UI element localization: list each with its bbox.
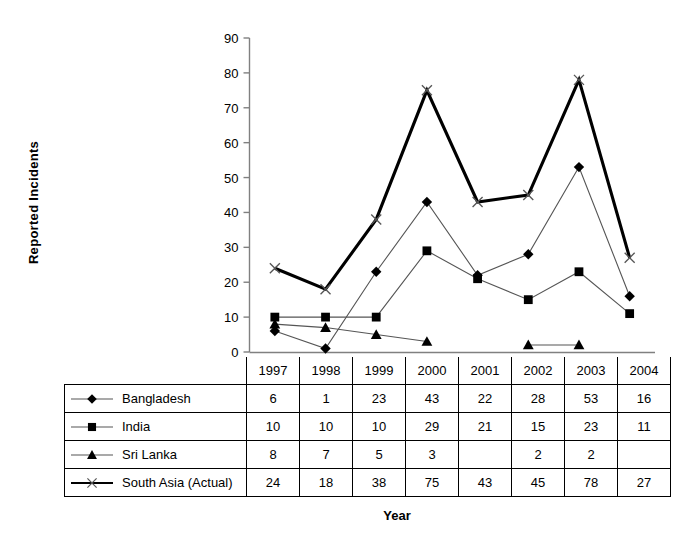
legend-swatch bbox=[69, 447, 115, 463]
table-value-cell: 53 bbox=[565, 385, 618, 413]
y-tick-label: 80 bbox=[224, 66, 238, 81]
y-tick-label: 10 bbox=[224, 310, 238, 325]
table-value-cell: 43 bbox=[406, 385, 459, 413]
table-header-row: 19971998199920002001200220032004 bbox=[65, 357, 671, 385]
y-tick-label: 20 bbox=[224, 275, 238, 290]
legend-marker-triangle-icon bbox=[69, 447, 115, 463]
table-corner-cell bbox=[65, 357, 247, 385]
table-value-cell: 2 bbox=[512, 441, 565, 469]
legend-label: South Asia (Actual) bbox=[115, 475, 233, 490]
y-axis-ticks: 0102030405060708090 bbox=[224, 31, 249, 360]
series-layer bbox=[269, 75, 634, 354]
series-india bbox=[270, 246, 634, 321]
table-value-cell: 29 bbox=[406, 413, 459, 441]
table-row: South Asia (Actual)2418387543457827 bbox=[65, 469, 671, 497]
series-sri-lanka bbox=[269, 319, 584, 350]
x-axis-title: Year bbox=[0, 508, 684, 523]
y-tick-label: 70 bbox=[224, 101, 238, 116]
data-table: 19971998199920002001200220032004Banglade… bbox=[64, 357, 671, 497]
data-point-marker bbox=[524, 295, 533, 304]
table-value-cell: 2 bbox=[565, 441, 618, 469]
year-header-cell: 2000 bbox=[406, 357, 459, 385]
table-row: India1010102921152311 bbox=[65, 413, 671, 441]
table-row: Sri Lanka875322 bbox=[65, 441, 671, 469]
table-value-cell: 21 bbox=[459, 413, 512, 441]
legend-cell-bangladesh: Bangladesh bbox=[65, 385, 247, 413]
table-value-cell: 78 bbox=[565, 469, 618, 497]
y-tick-label: 50 bbox=[224, 171, 238, 186]
table-value-cell: 23 bbox=[565, 413, 618, 441]
table-value-cell: 24 bbox=[247, 469, 300, 497]
legend-label: India bbox=[115, 419, 150, 434]
data-point-marker bbox=[423, 246, 432, 255]
series-line bbox=[275, 80, 630, 289]
data-point-marker bbox=[575, 267, 584, 276]
legend-swatch bbox=[69, 475, 115, 491]
year-header-cell: 2001 bbox=[459, 357, 512, 385]
data-point-marker bbox=[422, 197, 432, 207]
legend-marker-square-icon bbox=[69, 419, 115, 435]
data-point-marker bbox=[625, 309, 634, 318]
legend-cell-sri-lanka: Sri Lanka bbox=[65, 441, 247, 469]
table-value-cell: 10 bbox=[247, 413, 300, 441]
table-value-cell: 16 bbox=[618, 385, 671, 413]
year-header-cell: 1999 bbox=[353, 357, 406, 385]
year-header-cell: 2002 bbox=[512, 357, 565, 385]
year-header-cell: 2004 bbox=[618, 357, 671, 385]
series-south-asia-actual bbox=[270, 75, 635, 294]
table-value-cell: 23 bbox=[353, 385, 406, 413]
year-header-cell: 2003 bbox=[565, 357, 618, 385]
data-point-marker bbox=[523, 249, 533, 259]
legend-cell-india: India bbox=[65, 413, 247, 441]
data-point-marker bbox=[574, 162, 584, 172]
table-value-cell: 11 bbox=[618, 413, 671, 441]
table-value-cell: 1 bbox=[300, 385, 353, 413]
table-value-cell: 75 bbox=[406, 469, 459, 497]
table-value-cell: 10 bbox=[353, 413, 406, 441]
y-tick-label: 90 bbox=[224, 31, 238, 46]
legend-label: Sri Lanka bbox=[115, 447, 177, 462]
table-value-cell: 38 bbox=[353, 469, 406, 497]
table-value-cell: 22 bbox=[459, 385, 512, 413]
table-value-cell: 15 bbox=[512, 413, 565, 441]
y-tick-label: 60 bbox=[224, 136, 238, 151]
legend-marker-diamond-icon bbox=[69, 391, 115, 407]
data-point-marker bbox=[371, 267, 381, 277]
year-header-cell: 1997 bbox=[247, 357, 300, 385]
legend-swatch bbox=[69, 419, 115, 435]
table-row: Bangladesh61234322285316 bbox=[65, 385, 671, 413]
table-value-cell: 8 bbox=[247, 441, 300, 469]
data-point-marker bbox=[624, 291, 634, 301]
legend-cell-south-asia-actual: South Asia (Actual) bbox=[65, 469, 247, 497]
year-header-cell: 1998 bbox=[300, 357, 353, 385]
table-value-cell: 28 bbox=[512, 385, 565, 413]
legend-marker-x-icon bbox=[69, 475, 115, 491]
table-value-cell: 10 bbox=[300, 413, 353, 441]
table-value-cell: 7 bbox=[300, 441, 353, 469]
table-value-cell: 43 bbox=[459, 469, 512, 497]
y-tick-label: 40 bbox=[224, 205, 238, 220]
table-value-cell: 3 bbox=[406, 441, 459, 469]
data-point-marker bbox=[321, 313, 330, 322]
table-value-cell: 6 bbox=[247, 385, 300, 413]
legend-label: Bangladesh bbox=[115, 391, 191, 406]
data-point-marker bbox=[473, 274, 482, 283]
table-value-cell bbox=[459, 441, 512, 469]
data-point-marker bbox=[372, 313, 381, 322]
table-value-cell: 45 bbox=[512, 469, 565, 497]
legend-swatch bbox=[69, 391, 115, 407]
table-value-cell: 27 bbox=[618, 469, 671, 497]
y-tick-label: 30 bbox=[224, 240, 238, 255]
plot-area: 0102030405060708090 bbox=[0, 0, 684, 400]
table-value-cell bbox=[618, 441, 671, 469]
table-value-cell: 18 bbox=[300, 469, 353, 497]
table-value-cell: 5 bbox=[353, 441, 406, 469]
line-chart: Reported Incidents 0102030405060708090 Y… bbox=[0, 0, 684, 551]
